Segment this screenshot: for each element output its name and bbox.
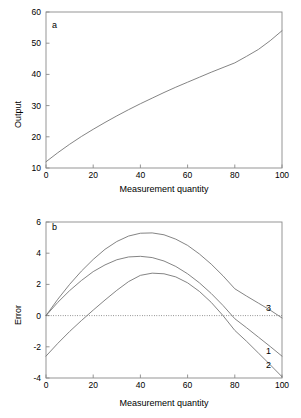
- svg-text:40: 40: [32, 69, 42, 79]
- svg-text:60: 60: [32, 7, 42, 17]
- svg-text:0: 0: [44, 170, 49, 180]
- panel-a-x-axis-label: Measurement quantity: [46, 184, 282, 194]
- svg-text:0: 0: [44, 380, 49, 390]
- svg-text:4: 4: [36, 248, 41, 258]
- svg-text:40: 40: [136, 170, 146, 180]
- panel-a-letter: a: [52, 20, 57, 30]
- svg-text:50: 50: [32, 38, 42, 48]
- panel-a-y-axis-label: Output: [13, 101, 23, 128]
- curve-label-1: 1: [266, 346, 271, 356]
- svg-text:6: 6: [36, 217, 41, 227]
- svg-text:100: 100: [275, 380, 289, 390]
- svg-text:0: 0: [36, 311, 41, 321]
- svg-text:-2: -2: [33, 342, 41, 352]
- panel-a-plot: 020406080100102030405060: [0, 0, 301, 208]
- panel-b-plot: 020406080100-4-20246: [0, 208, 301, 418]
- svg-text:80: 80: [230, 380, 240, 390]
- curve-label-3: 3: [266, 303, 271, 313]
- svg-text:60: 60: [183, 380, 193, 390]
- svg-text:2: 2: [36, 279, 41, 289]
- svg-text:10: 10: [32, 163, 42, 173]
- svg-text:80: 80: [230, 170, 240, 180]
- panel-b-letter: b: [52, 222, 57, 232]
- svg-text:40: 40: [136, 380, 146, 390]
- svg-text:20: 20: [88, 380, 98, 390]
- svg-text:-4: -4: [33, 373, 41, 383]
- panel-b-y-axis-label: Error: [13, 305, 23, 325]
- svg-text:60: 60: [183, 170, 193, 180]
- svg-text:100: 100: [275, 170, 289, 180]
- svg-text:30: 30: [32, 101, 42, 111]
- svg-text:20: 20: [32, 132, 42, 142]
- curve-label-2: 2: [266, 360, 271, 370]
- figure-container: Output a Measurement quantity 0204060801…: [0, 0, 301, 418]
- svg-text:20: 20: [88, 170, 98, 180]
- panel-a: Output a Measurement quantity 0204060801…: [0, 0, 301, 208]
- panel-b-x-axis-label: Measurement quantity: [46, 398, 282, 408]
- panel-b: Error b Measurement quantity 3 1 2 02040…: [0, 208, 301, 418]
